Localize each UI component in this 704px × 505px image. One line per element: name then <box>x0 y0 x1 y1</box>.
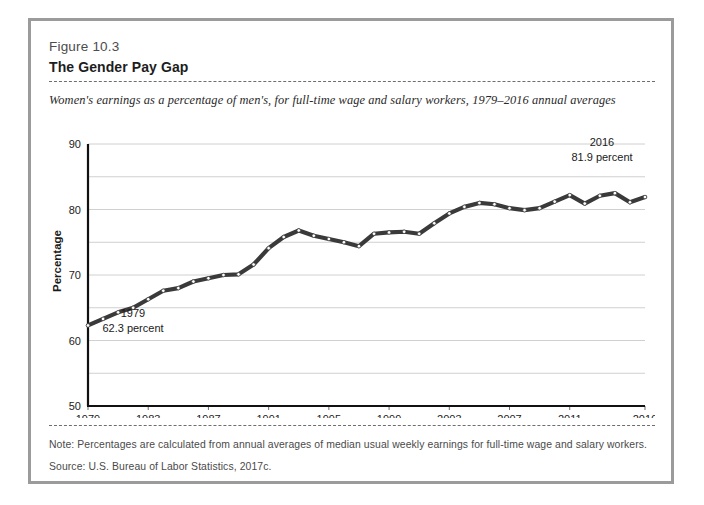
x-tick-label: 1987 <box>196 413 220 418</box>
y-tick-label: 80 <box>69 204 81 216</box>
figure-source: Source: U.S. Bureau of Labor Statistics,… <box>49 461 271 472</box>
data-point-marker <box>463 205 467 209</box>
y-axis-label: Percentage <box>51 230 63 292</box>
data-point-marker <box>372 232 376 236</box>
data-point-marker <box>508 206 512 210</box>
data-point-marker <box>553 200 557 204</box>
data-point-marker <box>417 232 421 236</box>
chart-svg: 5060708090 19791983198719911995199920032… <box>49 113 655 418</box>
annotation-end-value: 81.9 percent <box>571 151 632 163</box>
annotation-start-value: 62.3 percent <box>102 322 163 334</box>
data-point-marker <box>342 240 346 244</box>
x-tick-label: 1979 <box>76 413 100 418</box>
data-point-marker <box>583 202 587 206</box>
data-point-marker <box>478 201 482 205</box>
figure-card: Figure 10.3 The Gender Pay Gap Women's e… <box>28 18 674 484</box>
divider-top <box>49 81 655 82</box>
y-tick-label: 50 <box>69 400 81 412</box>
data-point-marker <box>613 191 617 195</box>
figure-inner: Figure 10.3 The Gender Pay Gap Women's e… <box>31 21 671 481</box>
data-point-marker <box>267 246 271 250</box>
data-point-marker <box>282 235 286 239</box>
data-point-marker <box>237 273 241 277</box>
annotation-end-year: 2016 <box>590 136 614 148</box>
x-axis-tick-labels: 1979198319871991199519992003200720112016 <box>76 413 655 418</box>
data-point-marker <box>327 237 331 241</box>
data-point-marker <box>523 208 527 212</box>
data-point-marker <box>177 286 181 290</box>
data-series-line <box>88 193 645 325</box>
data-point-marker <box>116 311 120 315</box>
data-point-marker <box>357 244 361 248</box>
data-point-markers <box>86 191 647 327</box>
y-tick-label: 90 <box>69 138 81 150</box>
annotation-start-year: 1979 <box>121 307 145 319</box>
x-tick-label: 2016 <box>633 413 655 418</box>
x-tick-label: 1999 <box>377 413 401 418</box>
x-tick-label: 2007 <box>497 413 521 418</box>
x-tick-label: 1995 <box>317 413 341 418</box>
data-point-marker <box>598 194 602 198</box>
data-point-marker <box>297 229 301 233</box>
data-point-marker <box>222 273 226 277</box>
data-point-marker <box>402 230 406 234</box>
data-point-marker <box>643 195 647 199</box>
data-point-marker <box>146 297 150 301</box>
figure-number: Figure 10.3 <box>49 39 120 54</box>
data-point-marker <box>207 276 211 280</box>
data-point-marker <box>192 280 196 284</box>
data-point-marker <box>101 317 105 321</box>
data-point-marker <box>312 234 316 238</box>
data-point-marker <box>568 193 572 197</box>
data-point-marker <box>628 201 632 205</box>
data-point-marker <box>387 231 391 235</box>
y-axis-tick-labels: 5060708090 <box>69 138 81 412</box>
line-chart: 5060708090 19791983198719911995199920032… <box>49 113 655 418</box>
figure-note: Note: Percentages are calculated from an… <box>49 439 647 450</box>
data-point-marker <box>86 324 90 328</box>
y-tick-label: 70 <box>69 269 81 281</box>
data-point-marker <box>538 206 542 210</box>
x-tick-label: 2003 <box>437 413 461 418</box>
data-point-marker <box>448 212 452 216</box>
figure-subtitle: Women's earnings as a percentage of men'… <box>49 93 649 108</box>
x-tick-label: 2011 <box>558 413 582 418</box>
series-polyline <box>88 193 645 325</box>
divider-bottom <box>49 425 655 426</box>
x-tick-label: 1983 <box>136 413 160 418</box>
page-title: The Gender Pay Gap <box>49 59 189 75</box>
data-point-marker <box>252 263 256 267</box>
data-point-marker <box>432 221 436 225</box>
y-tick-label: 60 <box>69 335 81 347</box>
data-point-marker <box>161 289 165 293</box>
x-tick-label: 1991 <box>256 413 280 418</box>
data-point-marker <box>493 202 497 206</box>
